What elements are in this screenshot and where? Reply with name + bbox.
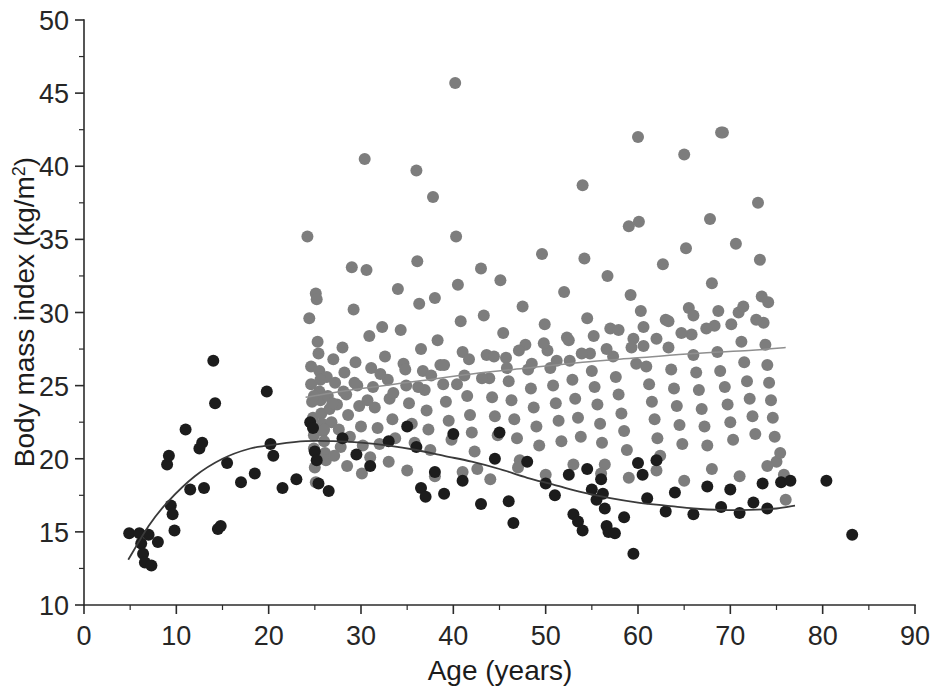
data-point [313,348,325,360]
data-point [730,238,742,250]
data-point [724,484,736,496]
data-point [327,353,339,365]
data-point [719,381,731,393]
data-point [338,367,350,379]
data-point [630,358,642,370]
data-point [457,475,469,487]
data-point [734,507,746,519]
data-point [503,495,515,507]
data-point [589,381,601,393]
data-point [455,315,467,327]
data-point [392,283,404,295]
data-point [379,350,391,362]
data-point [427,191,439,203]
y-tick-label: 50 [39,6,69,36]
y-tick-label: 25 [39,372,69,402]
plot-background [0,0,943,695]
data-point [410,165,422,177]
data-point [765,394,777,406]
data-point [449,77,461,89]
data-point [680,242,692,254]
data-point [438,359,450,371]
data-point [553,415,565,427]
data-point [555,435,567,447]
data-point [403,397,415,409]
data-point [539,318,551,330]
data-point [763,377,775,389]
x-tick-label: 40 [438,621,468,651]
data-point [420,491,432,503]
data-point [464,409,476,421]
data-point [615,407,627,419]
data-point [696,403,708,415]
data-point [576,348,588,360]
data-point [722,399,734,411]
data-point [412,381,424,393]
data-point [577,524,589,536]
data-point [601,343,613,355]
scatter-plot: 101520253035404550 0102030405060708090 A… [0,0,943,695]
data-point [750,314,762,326]
data-point [752,197,764,209]
data-point [261,386,273,398]
data-point [364,460,376,472]
data-point [463,353,475,365]
data-point [563,334,575,346]
data-point [376,321,388,333]
data-point [690,367,702,379]
x-tick-label: 80 [808,621,838,651]
data-point [651,454,663,466]
data-point [169,524,181,536]
data-point [563,469,575,481]
data-point [591,399,603,411]
data-point [663,315,675,327]
data-point [586,365,598,377]
x-tick-label: 30 [346,621,376,651]
x-tick-label: 20 [254,621,284,651]
data-point [820,475,832,487]
data-point [577,179,589,191]
data-point [640,361,652,373]
data-point [761,359,773,371]
data-point [301,230,313,242]
data-point [466,426,478,438]
data-point [395,324,407,336]
data-point [303,312,315,324]
data-point [762,296,774,308]
data-point [421,405,433,417]
data-point [198,482,210,494]
data-point [461,390,473,402]
y-tick-label: 15 [39,518,69,548]
data-point [525,383,537,395]
data-point [328,450,340,462]
data-point [780,494,792,506]
data-point [383,456,395,468]
data-point [575,431,587,443]
figure-container: 101520253035404550 0102030405060708090 A… [0,0,943,695]
data-point [651,333,663,345]
data-point [501,362,513,374]
data-point [235,476,247,488]
data-point [567,459,579,471]
data-point [497,327,509,339]
data-point [374,368,386,380]
data-point [638,321,650,333]
data-point [209,397,221,409]
data-point [547,380,559,392]
data-point [704,213,716,225]
data-point [440,396,452,408]
data-point [747,410,759,422]
data-point [180,424,192,436]
data-point [625,289,637,301]
data-point [313,478,325,490]
data-point [701,481,713,493]
data-point [349,377,361,389]
data-point [714,365,726,377]
data-point [613,324,625,336]
data-point [311,454,323,466]
data-point [401,421,413,433]
data-point [633,216,645,228]
data-point [267,450,279,462]
data-point [447,428,459,440]
data-point [734,470,746,482]
